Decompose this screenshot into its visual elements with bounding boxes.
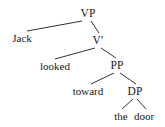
branch-vp-to-vbar (91, 21, 99, 33)
branch-vbar-to-pp (101, 48, 116, 58)
syntax-tree-figure: VP Jack V' looked PP toward DP the door (0, 0, 165, 127)
branch-dp-to-door (137, 99, 146, 109)
node-v-bar: V' (93, 35, 104, 47)
branch-pp-to-dp (120, 73, 136, 84)
node-looked: looked (40, 61, 70, 72)
branch-pp-to-toward (91, 73, 114, 84)
node-the: the (114, 111, 127, 122)
node-door: door (134, 111, 154, 122)
node-jack: Jack (12, 33, 32, 44)
node-pp: PP (110, 60, 123, 72)
node-dp: DP (127, 86, 142, 98)
branch-dp-to-the (122, 99, 133, 109)
branch-vp-to-jack (27, 21, 82, 31)
node-vp: VP (80, 8, 95, 20)
branch-vbar-to-looked (55, 48, 95, 59)
node-toward: toward (73, 86, 104, 97)
